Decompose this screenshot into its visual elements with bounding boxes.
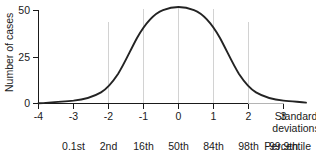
percentile-label-50th: 50th: [168, 140, 189, 152]
x-tick-label-zero: 0: [176, 110, 182, 122]
y-tick-label-25: 25: [18, 51, 30, 63]
percentile-axis-title: Percentile: [264, 140, 311, 152]
x-axis-title-line1: Standard: [275, 110, 316, 122]
x-axis-title-line2: deviations: [272, 122, 316, 134]
normal-distribution-chart: 50 25 0 Number of cases -4 -3 -2 -1 0 1 …: [0, 0, 316, 156]
x-tick-label-plus1: 1: [211, 110, 217, 122]
y-tick-label-0: 0: [24, 97, 30, 109]
chart-svg: 50 25 0 Number of cases -4 -3 -2 -1 0 1 …: [0, 0, 316, 156]
x-tick-label-minus3: -3: [69, 110, 78, 122]
y-axis: [33, 10, 39, 104]
x-tick-label-minus4: -4: [34, 110, 43, 122]
y-tick-label-50: 50: [18, 4, 30, 16]
gridlines: [109, 6, 249, 104]
distribution-curve: [39, 7, 307, 103]
x-tick-label-minus2: -2: [104, 110, 113, 122]
percentile-label-2nd: 2nd: [100, 140, 118, 152]
x-axis: [39, 104, 285, 110]
x-tick-label-plus2: 2: [246, 110, 252, 122]
percentile-label-84th: 84th: [203, 140, 224, 152]
percentile-label-0-1st: 0.1st: [62, 140, 85, 152]
percentile-label-98th: 98th: [238, 140, 259, 152]
x-tick-label-minus1: -1: [139, 110, 148, 122]
y-axis-title: Number of cases: [3, 13, 15, 92]
percentile-label-16th: 16th: [133, 140, 154, 152]
